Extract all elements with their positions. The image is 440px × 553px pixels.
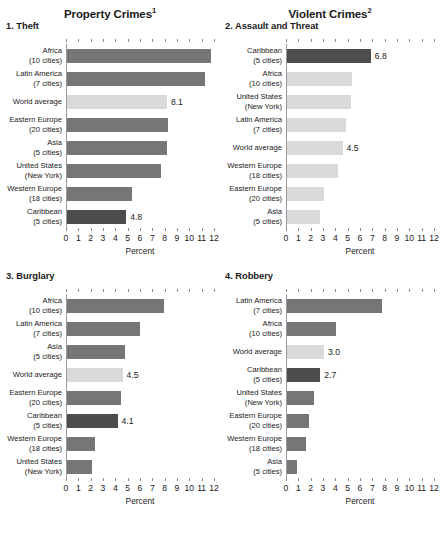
category-label: United States(New York) <box>220 388 286 406</box>
x-axis-tick-label: 0 <box>284 483 289 493</box>
bar[interactable] <box>67 391 121 405</box>
bar[interactable] <box>287 391 314 405</box>
category-name: Eastern Europe <box>229 184 282 193</box>
category-label: Latin America(7 cities) <box>220 296 286 314</box>
tick-mark <box>372 289 373 292</box>
bar[interactable] <box>67 49 211 63</box>
tick-mark <box>214 39 215 42</box>
category-label: Caribbean(5 cities) <box>0 207 66 225</box>
bar[interactable] <box>67 368 123 382</box>
x-axis-tick-label: 9 <box>175 483 180 493</box>
panel-title: 2. Assault and Threat <box>220 20 440 31</box>
bar-row: Eastern Europe(20 cities) <box>220 182 440 205</box>
bar[interactable] <box>67 72 205 86</box>
category-name: World average <box>13 97 62 106</box>
chart-area: Caribbean(5 cities)6.8Africa(10 cities)U… <box>220 39 440 256</box>
category-name: Latin America <box>236 115 282 124</box>
bar[interactable] <box>67 299 164 313</box>
tick-mark <box>348 39 349 42</box>
bar-row: United States(New York) <box>0 159 220 182</box>
bar[interactable] <box>67 322 140 336</box>
tick-mark <box>385 228 386 231</box>
bar-row: United States(New York) <box>0 455 220 478</box>
bar-row: Latin America(7 cities) <box>0 67 220 90</box>
bar[interactable] <box>67 95 167 109</box>
bar[interactable] <box>287 95 351 109</box>
bar[interactable] <box>287 72 352 86</box>
x-axis-tick-label: 2 <box>88 233 93 243</box>
tick-mark <box>78 289 79 292</box>
tick-mark <box>372 478 373 481</box>
bar[interactable] <box>287 141 343 155</box>
plot-cell <box>66 386 214 409</box>
bar[interactable] <box>287 164 338 178</box>
category-sublabel: (5 cities) <box>0 217 62 226</box>
bar[interactable] <box>67 210 126 224</box>
tick-mark <box>140 228 141 231</box>
bar[interactable] <box>67 460 92 474</box>
bar[interactable] <box>287 118 346 132</box>
bar[interactable] <box>67 345 125 359</box>
tick-mark <box>140 289 141 292</box>
tick-mark <box>66 478 67 481</box>
tick-mark <box>91 289 92 292</box>
bar[interactable] <box>287 368 320 382</box>
tick-mark <box>298 289 299 292</box>
bar[interactable] <box>287 322 336 336</box>
category-sublabel: (10 cities) <box>0 56 62 65</box>
bar[interactable] <box>287 187 324 201</box>
x-axis-tick-label: 3 <box>321 483 326 493</box>
bar-row: Eastern Europe(20 cities) <box>0 386 220 409</box>
bar-row: Latin America(7 cities) <box>0 317 220 340</box>
footnote-marker-2: 2 <box>367 6 371 15</box>
bar[interactable] <box>67 164 161 178</box>
tick-mark <box>397 228 398 231</box>
x-axis-tick-label: 12 <box>429 483 439 493</box>
category-label: World average <box>0 97 66 106</box>
category-name: United States <box>236 92 282 101</box>
tick-mark <box>189 289 190 292</box>
bar[interactable] <box>287 437 306 451</box>
bar-row: Asia(5 cities) <box>0 136 220 159</box>
x-axis-title: Percent <box>286 246 434 256</box>
bar-row: Western Europe(18 cities) <box>220 159 440 182</box>
bar[interactable] <box>67 414 118 428</box>
x-axis-tick-label: 7 <box>150 233 155 243</box>
bar[interactable] <box>287 299 382 313</box>
bar[interactable] <box>67 118 168 132</box>
bar[interactable] <box>67 187 132 201</box>
bar-row: Caribbean(5 cities)4.1 <box>0 409 220 432</box>
bar[interactable] <box>287 49 371 63</box>
bar-value-label: 6.8 <box>375 51 387 61</box>
x-axis-tick-label: 5 <box>125 483 130 493</box>
x-axis-tick-label: 8 <box>162 233 167 243</box>
category-name: Asia <box>267 207 282 216</box>
category-sublabel: (10 cities) <box>220 329 282 338</box>
tick-mark <box>115 289 116 292</box>
tick-mark <box>128 478 129 481</box>
x-axis-tick-label: 11 <box>417 233 426 243</box>
tick-mark <box>115 39 116 42</box>
bar[interactable] <box>287 210 320 224</box>
x-axis-tick-label: 0 <box>64 233 69 243</box>
category-name: World average <box>233 143 282 152</box>
bar[interactable] <box>67 437 95 451</box>
category-label: Western Europe(18 cities) <box>0 434 66 452</box>
category-sublabel: (18 cities) <box>0 444 62 453</box>
bar[interactable] <box>287 460 297 474</box>
x-axis-tick-label: 1 <box>76 233 81 243</box>
bar[interactable] <box>67 141 167 155</box>
category-name: Caribbean <box>247 365 282 374</box>
bar-value-label: 3.0 <box>328 347 340 357</box>
bar-row: Caribbean(5 cities)2.7 <box>220 363 440 386</box>
bar[interactable] <box>287 345 324 359</box>
group-heading-violent-crimes-text: Violent Crimes <box>289 8 368 20</box>
bar-value-label: 4.5 <box>347 143 359 153</box>
tick-mark <box>214 478 215 481</box>
category-sublabel: (20 cities) <box>0 125 62 134</box>
tick-mark <box>214 289 215 292</box>
x-axis-tick-label: 1 <box>76 483 81 493</box>
category-sublabel: (5 cities) <box>0 421 62 430</box>
bar[interactable] <box>287 414 309 428</box>
bar-row: Africa(10 cities) <box>0 294 220 317</box>
